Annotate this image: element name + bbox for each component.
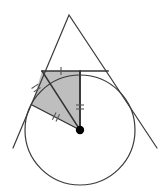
geometry-canvas: [0, 0, 168, 195]
circle-center-point: [76, 126, 84, 134]
figure-background: [0, 0, 168, 195]
geometry-figure: [0, 0, 168, 195]
